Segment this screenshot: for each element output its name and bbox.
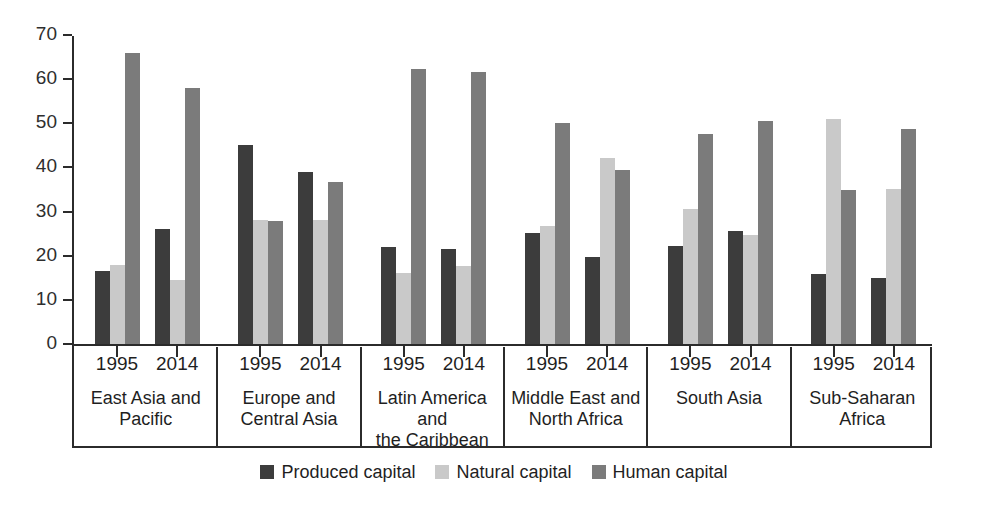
region-label: Middle East andNorth Africa [504,388,647,430]
capital-composition-bar-chart: 010203040506070 19952014East Asia andPac… [0,0,988,507]
region-label-line: South Asia [647,388,790,409]
region-label-line: the Caribbean [361,430,504,451]
region-label: South Asia [647,388,790,409]
bar [555,123,570,344]
region-label-line: Africa [791,409,934,430]
y-tick-label: 30 [36,201,57,221]
legend-swatch-icon [260,465,274,479]
y-tick-20: 20 [63,255,72,257]
bar [886,189,901,344]
bar [185,88,200,344]
bar [668,246,683,344]
bar [698,134,713,344]
bar [585,257,600,344]
bar [471,72,486,344]
y-tick-0: 0 [63,343,72,345]
bar [268,221,283,344]
x-year-label: 2014 [849,353,939,375]
region-label-line: East Asia and [74,388,217,409]
bars-layer [74,36,932,344]
x-axis-label-box: 19952014East Asia andPacific19952014Euro… [72,347,932,448]
x-year-label: 2014 [132,353,222,375]
bar [456,266,471,344]
y-tick-70: 70 [63,34,72,36]
y-tick-label: 20 [36,245,57,265]
y-tick-label: 40 [36,156,57,176]
region-label-line: Pacific [74,409,217,430]
region-label-line: Middle East and [504,388,647,409]
bar [125,53,140,344]
bar [811,274,826,344]
bar [728,231,743,344]
legend-item: Produced capital [260,462,415,482]
bar [95,271,110,344]
legend-label: Natural capital [456,462,571,482]
region-label: Latin America andthe Caribbean [361,388,504,451]
x-year-label: 2014 [562,353,652,375]
y-tick-label: 50 [36,112,57,132]
bar [615,170,630,344]
bar [683,209,698,344]
y-tick-label: 10 [36,289,57,309]
bar [110,265,125,344]
bar [743,235,758,344]
x-axis-line [72,344,932,346]
bar [396,273,411,344]
x-year-label: 2014 [419,353,509,375]
x-year-label: 2014 [706,353,796,375]
bar [328,182,343,344]
bar [871,278,886,344]
bar [901,129,916,344]
y-tick-label: 0 [46,333,57,353]
bar [525,233,540,344]
bar [313,220,328,344]
bar [758,121,773,344]
region-label: Europe andCentral Asia [217,388,360,430]
y-tick-60: 60 [63,78,72,80]
y-tick-label: 70 [36,24,57,44]
legend-swatch-icon [435,465,449,479]
region-label-line: Europe and [217,388,360,409]
y-tick-40: 40 [63,166,72,168]
bar [441,249,456,344]
bar [298,172,313,344]
bar [238,145,253,344]
region-label-line: Sub-Saharan [791,388,934,409]
legend-label: Produced capital [281,462,415,482]
bar [170,280,185,344]
region-label: East Asia andPacific [74,388,217,430]
region-label: Sub-SaharanAfrica [791,388,934,430]
bar [600,158,615,344]
legend-label: Human capital [613,462,728,482]
legend-item: Human capital [592,462,728,482]
y-tick-10: 10 [63,299,72,301]
y-tick-30: 30 [63,211,72,213]
bar [841,190,856,345]
bar [381,247,396,344]
x-year-label: 2014 [276,353,366,375]
bar [540,226,555,344]
plot-area: 010203040506070 [72,36,932,346]
bar [253,220,268,344]
region-label-line: Central Asia [217,409,360,430]
bar [155,229,170,344]
legend-item: Natural capital [435,462,571,482]
region-label-line: Latin America and [361,388,504,430]
y-tick-label: 60 [36,68,57,88]
chart-legend: Produced capitalNatural capitalHuman cap… [0,462,988,482]
y-tick-50: 50 [63,122,72,124]
legend-swatch-icon [592,465,606,479]
bar [411,69,426,344]
bar [826,119,841,344]
region-label-line: North Africa [504,409,647,430]
